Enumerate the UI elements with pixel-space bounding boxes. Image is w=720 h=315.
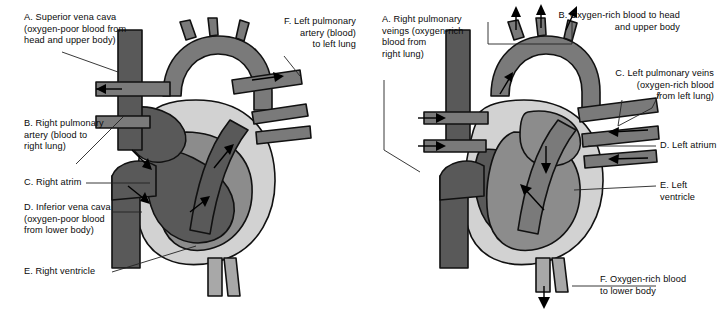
descending-vessel-b (224, 258, 240, 296)
left-carotid-branch (208, 18, 218, 36)
brachiocephalic-branch (180, 20, 196, 40)
left-pulmonary-veins-mid (582, 126, 659, 147)
left-pulmonary-veins-lower (256, 126, 311, 144)
label-f-oxygen-rich-to-lower-body: F. Oxygen-rich blood to lower body (600, 274, 720, 297)
panel-oxygen-rich: A. Right pulmonary veings (oxygen-rich b… (360, 0, 720, 315)
descending-vessel-b (552, 258, 568, 292)
label-a-right-pulmonary-veins: A. Right pulmonary veings (oxygen-rich b… (382, 14, 490, 60)
label-d-left-atrium: D. Left atrium (660, 140, 720, 152)
panel-oxygen-poor: A. Superior vena cava (oxygen-poor blood… (0, 0, 360, 315)
label-c-right-atrium: C. Right atrim (24, 177, 144, 189)
label-c-left-pulmonary-veins: C. Left pulmonary veins (oxygen-rich blo… (556, 68, 714, 103)
descending-vessel-a (208, 258, 222, 296)
label-e-left-ventricle: E. Left ventricle (660, 180, 720, 203)
heart-circulation-figure: A. Superior vena cava (oxygen-poor blood… (0, 0, 720, 315)
label-f-left-pulmonary-artery: F. Left pulmonary artery (blood) to left… (258, 16, 356, 51)
label-b-right-pulmonary-artery: B. Right pulmonary artery (blood to righ… (24, 118, 132, 153)
descending-aorta (536, 258, 550, 292)
label-a-superior-vena-cava: A. Superior vena cava (oxygen-poor blood… (24, 12, 156, 47)
vena-cava-junction (440, 161, 484, 200)
aortic-arch (163, 36, 272, 110)
label-e-right-ventricle: E. Right ventricle (24, 266, 150, 278)
label-b-oxygen-rich-to-head: B. Oxygen-rich blood to head and upper b… (480, 10, 680, 33)
left-subclavian-branch (236, 20, 249, 41)
label-d-inferior-vena-cava: D. Inferior vena cava (oxygen-poor blood… (24, 202, 142, 237)
